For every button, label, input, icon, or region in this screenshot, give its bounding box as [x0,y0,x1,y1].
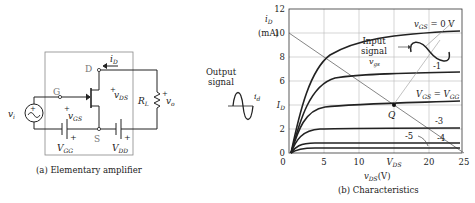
svg-text:VGG: VGG [57,143,73,154]
svg-text:signal: signal [208,77,234,87]
svg-text:RL: RL [137,96,149,107]
label-vgs-vgg: VGS = VGG [416,89,460,100]
label-vgs-m4: -4 [437,133,445,143]
curve-vgs-m5 [291,148,460,153]
source-plus: + [30,105,36,113]
q-point [392,103,396,107]
label-vgs-m5: -5 [405,131,413,141]
svg-text:VDD: VDD [112,143,128,154]
label-vgs-m1: -1 [433,61,441,71]
ac-wave-icon [28,113,40,118]
input-signal-label-1: Input [362,36,386,46]
svg-text:6: 6 [280,76,285,86]
svg-text:vDS: vDS [114,90,128,101]
output-signal: Output signal id [206,67,261,120]
svg-text:Q: Q [388,110,396,120]
svg-text:id: id [254,92,261,102]
source-label: S [94,134,100,144]
curve-vgs-m3 [291,128,460,153]
svg-text:25: 25 [459,157,470,167]
label-vgs-m3: -3 [435,116,443,126]
svg-text:10: 10 [354,157,365,167]
svg-text:12: 12 [274,4,285,14]
svg-text:0: 0 [280,157,285,167]
gate-label: G [53,87,60,97]
svg-text:vi: vi [8,109,15,120]
curve-vgs-vgg [291,101,460,153]
svg-text:ID: ID [276,100,285,111]
curve-vgs-m1 [291,72,460,153]
input-signal-label-2: signal [361,46,387,56]
svg-text:vo: vo [166,96,175,107]
svg-text:8: 8 [280,52,285,62]
svg-text:VDS: VDS [386,157,401,168]
input-signal-wave [411,42,450,61]
figure: vi + G D S iD + vGS + vDS RL + vo + VGG … [0,0,475,203]
svg-text:2: 2 [280,124,285,134]
label-vgs-0: vGS = 0 V [414,19,455,30]
svg-text:20: 20 [424,157,435,167]
svg-text:+: + [124,133,131,142]
circuit-caption: (a) Elementary amplifier [36,165,143,175]
chart-caption: (b) Characteristics [338,185,419,195]
svg-text:vGS: vGS [68,111,82,122]
y-axis-label-var: iD [265,14,273,25]
chart: Q vGS = 0 V -1 VGS = VGG -3 -4 -5 Input … [258,4,469,195]
svg-text:+: + [70,133,77,142]
chart-grid [289,9,462,153]
x-axis-label: vDS(V) [364,171,391,182]
svg-text:5: 5 [321,157,326,167]
x-axis-ticks: 0 5 10 VDS 20 25 [280,157,469,168]
svg-text:iD: iD [110,54,118,65]
svg-text:Output: Output [206,67,237,77]
drain-label: D [85,64,92,74]
input-signal-vgs: vgs [369,57,380,68]
y-axis-label-unit: (mA) [258,28,279,38]
